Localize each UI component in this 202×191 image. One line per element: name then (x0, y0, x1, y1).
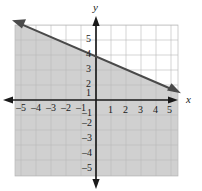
y-tick-label--4: –4 (82, 148, 92, 158)
x-tick-label--5: –5 (16, 103, 26, 113)
y-tick-label--5: –5 (82, 163, 92, 173)
y-tick-label--2: –2 (82, 118, 92, 128)
y-axis-bottom-arrowhead (92, 179, 99, 189)
x-tick-label-1: 1 (108, 105, 113, 115)
y-axis-label: y (93, 2, 98, 13)
x-tick-label--4: –4 (31, 103, 41, 113)
y-tick-label-5: 5 (86, 34, 91, 44)
x-tick-label-2: 2 (123, 105, 128, 115)
x-tick-label-3: 3 (138, 105, 143, 115)
coordinate-plane-graph (0, 0, 202, 191)
x-tick-label--2: –2 (61, 103, 71, 113)
x-tick-label--3: –3 (46, 103, 56, 113)
x-tick-label-4: 4 (153, 105, 158, 115)
y-tick-label-3: 3 (86, 64, 91, 74)
y-axis-top-arrowhead (92, 16, 99, 26)
x-tick-label-5: 5 (167, 105, 172, 115)
y-tick-label-1: 1 (86, 88, 91, 98)
x-axis-label: x (186, 94, 191, 105)
x-axis-left-arrowhead (3, 96, 13, 103)
y-tick-label--3: –3 (82, 133, 92, 143)
y-tick-label-4: 4 (86, 49, 91, 59)
